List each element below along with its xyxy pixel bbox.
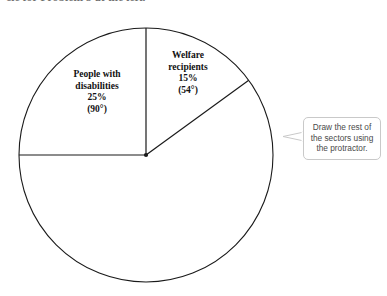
callout-tail-icon — [282, 131, 304, 142]
sector-label-percent: 25% — [47, 92, 147, 104]
sector-label-line1: People with — [47, 69, 147, 81]
callout-line2: the sectors using — [308, 133, 376, 144]
sector-label-percent: 15% — [152, 73, 224, 85]
sector-label-line2: disabilities — [47, 81, 147, 93]
callout-line1: Draw the rest of — [308, 122, 376, 133]
callout-line3: the protractor. — [308, 143, 376, 154]
sector-label-people-with-disabilities: People with disabilities 25% (90°) — [47, 69, 147, 115]
circle-center-point — [144, 153, 148, 157]
sector-label-degrees: (90°) — [47, 104, 147, 116]
sector-label-welfare-recipients: Welfare recipients 15% (54°) — [152, 50, 224, 96]
sector-label-line1: Welfare — [152, 50, 224, 62]
sector-label-line2: recipients — [152, 62, 224, 74]
callout-instruction-box: Draw the rest of the sectors using the p… — [303, 117, 381, 160]
sector-label-degrees: (54°) — [152, 85, 224, 97]
